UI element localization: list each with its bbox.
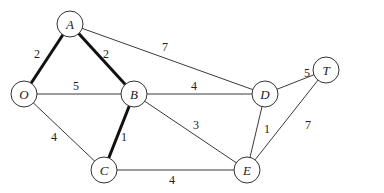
edge-weight-o-a: 2 (34, 47, 40, 61)
node-label: B (130, 87, 138, 102)
node-label: T (322, 63, 330, 78)
node-a: A (57, 11, 83, 37)
edge-weight-d-e: 1 (264, 122, 270, 136)
edge-a-d (70, 24, 265, 94)
edge-o-c (24, 94, 104, 170)
edge-weight-a-b: 2 (103, 47, 109, 61)
edge-a-b (70, 24, 134, 94)
node-label: E (242, 163, 251, 178)
edge-weight-d-t: 5 (304, 66, 310, 80)
edge-weight-t-e: 7 (305, 118, 311, 132)
edge-weight-o-c: 4 (51, 130, 57, 144)
edge-weight-b-d: 4 (191, 79, 197, 93)
node-c: C (91, 157, 117, 183)
edge-b-e (134, 94, 247, 170)
node-label: D (259, 87, 270, 102)
edge-weight-b-c: 1 (121, 130, 127, 144)
edges-layer (24, 24, 326, 170)
node-d: D (252, 81, 278, 107)
graph-diagram: 227545413174 AOBDTCE (0, 0, 384, 193)
edge-weight-b-e: 3 (193, 118, 199, 132)
edge-weight-c-e: 4 (169, 173, 175, 187)
edge-weight-o-b: 5 (73, 79, 79, 93)
node-label: A (65, 17, 74, 32)
node-b: B (121, 81, 147, 107)
node-e: E (234, 157, 260, 183)
node-t: T (313, 57, 339, 83)
edge-weight-a-d: 7 (162, 40, 168, 54)
node-label: O (19, 87, 29, 102)
node-o: O (11, 81, 37, 107)
edge-weight-labels: 227545413174 (34, 40, 311, 187)
node-label: C (100, 163, 109, 178)
